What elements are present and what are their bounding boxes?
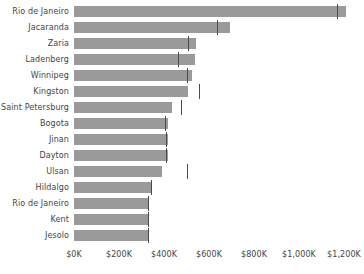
x-axis-tick-label: $1,200K [327, 250, 361, 259]
bar-row[interactable]: Rio de Janeiro [0, 196, 364, 212]
bar-row[interactable]: Bogota [0, 116, 364, 132]
bar[interactable] [74, 86, 188, 97]
category-label: Saint Petersburg [1, 100, 69, 116]
reference-marker [187, 164, 188, 179]
bar-row[interactable]: Ladenberg [0, 52, 364, 68]
bar-chart: Rio de JaneiroJacarandaZariaLadenbergWin… [0, 0, 364, 274]
bar-row[interactable]: Saint Petersburg [0, 100, 364, 116]
bar[interactable] [74, 6, 346, 17]
category-label: Ladenberg [25, 52, 69, 68]
x-axis-tick-label: $1,000K [282, 250, 316, 259]
bar-row[interactable]: Zaria [0, 36, 364, 52]
category-label: Kingston [33, 84, 69, 100]
category-label: Zaria [48, 36, 69, 52]
reference-marker [217, 20, 218, 35]
category-label: Dayton [40, 148, 70, 164]
plot-area: Rio de JaneiroJacarandaZariaLadenbergWin… [0, 0, 364, 248]
bar-row[interactable]: Ulsan [0, 164, 364, 180]
category-label: Hildalgo [36, 180, 69, 196]
bar-row[interactable]: Kent [0, 212, 364, 228]
reference-marker [181, 100, 182, 115]
category-label: Jinan [49, 132, 69, 148]
category-label: Bogota [40, 116, 69, 132]
reference-marker [178, 52, 179, 67]
category-label: Ulsan [46, 164, 69, 180]
reference-marker [151, 180, 152, 195]
bar[interactable] [74, 22, 230, 33]
bar[interactable] [74, 54, 195, 65]
bar-row[interactable]: Jinan [0, 132, 364, 148]
bar-row[interactable]: Dayton [0, 148, 364, 164]
x-axis-tick-label: $200K [106, 250, 132, 259]
reference-marker [187, 68, 188, 83]
bar-row[interactable]: Kingston [0, 84, 364, 100]
bar[interactable] [74, 214, 148, 225]
x-axis: $0K$200K$400K$600K$800K$1,000K$1,200K [0, 250, 364, 268]
category-label: Winnipeg [31, 68, 69, 84]
bar[interactable] [74, 182, 152, 193]
category-label: Kent [51, 212, 69, 228]
category-label: Rio de Janeiro [12, 4, 69, 20]
bar[interactable] [74, 38, 196, 49]
reference-marker [166, 132, 167, 147]
category-label: Jesolo [45, 228, 69, 244]
x-axis-tick-label: $800K [241, 250, 267, 259]
bar-row[interactable]: Hildalgo [0, 180, 364, 196]
bar[interactable] [74, 230, 148, 241]
reference-marker [199, 84, 200, 99]
bar-row[interactable]: Winnipeg [0, 68, 364, 84]
reference-marker [148, 212, 149, 227]
bar[interactable] [74, 166, 162, 177]
bar[interactable] [74, 134, 168, 145]
bar[interactable] [74, 70, 192, 81]
bar-row[interactable]: Jesolo [0, 228, 364, 244]
bar-row[interactable]: Rio de Janeiro [0, 4, 364, 20]
category-label: Rio de Janeiro [12, 196, 69, 212]
bar[interactable] [74, 118, 168, 129]
reference-marker [337, 4, 338, 19]
reference-marker [148, 196, 149, 211]
x-axis-tick-label: $400K [151, 250, 177, 259]
reference-marker [188, 36, 189, 51]
bar[interactable] [74, 198, 148, 209]
x-axis-tick-label: $0K [66, 250, 82, 259]
reference-marker [148, 228, 149, 243]
reference-marker [165, 116, 166, 131]
bar-row[interactable]: Jacaranda [0, 20, 364, 36]
bar[interactable] [74, 150, 168, 161]
x-axis-tick-label: $600K [196, 250, 222, 259]
reference-marker [166, 148, 167, 163]
bar[interactable] [74, 102, 172, 113]
category-label: Jacaranda [28, 20, 69, 36]
